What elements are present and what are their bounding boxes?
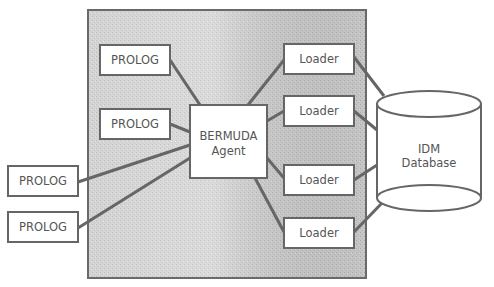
loader-node: Loader [284, 165, 354, 195]
prolog-node: PROLOG [100, 45, 170, 75]
loader-node: Loader [284, 218, 354, 248]
prolog-label: PROLOG [19, 220, 67, 234]
agent-label-line2: Agent [211, 144, 246, 158]
bermuda-architecture-diagram: PROLOG PROLOG PROLOG PROLOG BERMUDA Agen… [0, 0, 494, 287]
agent-label-line1: BERMUDA [199, 129, 257, 143]
prolog-label: PROLOG [111, 53, 159, 67]
loader-label: Loader [299, 52, 339, 66]
prolog-label: PROLOG [19, 174, 67, 188]
loader-node: Loader [284, 44, 354, 74]
idm-database-node: IDM Database [377, 91, 481, 211]
prolog-node-external: PROLOG [8, 212, 78, 242]
loader-label: Loader [299, 173, 339, 187]
loader-label: Loader [299, 226, 339, 240]
database-label-line2: Database [402, 156, 457, 170]
prolog-node: PROLOG [100, 109, 170, 139]
loader-node: Loader [284, 96, 354, 126]
bermuda-agent-node: BERMUDA Agent [190, 105, 267, 178]
prolog-label: PROLOG [111, 117, 159, 131]
database-label-line1: IDM [418, 142, 440, 156]
prolog-node-external: PROLOG [8, 166, 78, 196]
loader-label: Loader [299, 104, 339, 118]
